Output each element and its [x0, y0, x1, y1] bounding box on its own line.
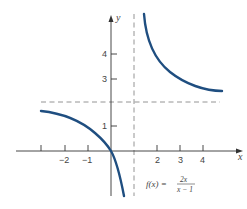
y-tick-label-4: 4: [102, 49, 107, 59]
x-tick-label-neg1: −1: [82, 155, 92, 165]
x-ticks: [41, 145, 203, 151]
formula-lhs: f(x) =: [146, 179, 167, 189]
y-tick-label-3: 3: [102, 74, 107, 84]
x-tick-label-4: 4: [200, 155, 205, 165]
x-tick-label-neg2: −2: [59, 155, 69, 165]
formula-denominator: x − 1: [176, 185, 193, 194]
y-ticks: [111, 54, 117, 126]
y-axis-arrow: [109, 15, 114, 22]
function-formula: f(x) = 2x x − 1: [146, 175, 195, 194]
function-graph: −2 −1 2 3 4 1 3 4 x y f(x) = 2x x − 1: [0, 0, 247, 209]
x-tick-label-2: 2: [155, 155, 160, 165]
y-tick-label-1: 1: [102, 121, 107, 131]
curve-right-branch: [144, 14, 222, 91]
formula-numerator: 2x: [180, 175, 188, 184]
y-axis-label: y: [115, 12, 121, 23]
x-axis-label: x: [237, 151, 243, 162]
x-tick-label-3: 3: [178, 155, 183, 165]
curve-left-branch: [41, 111, 124, 196]
